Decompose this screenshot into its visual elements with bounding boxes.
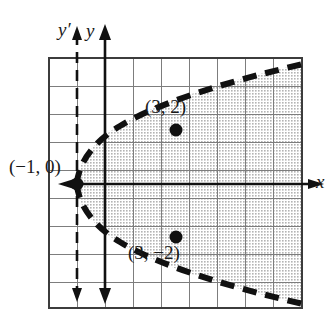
x-axis-label: x — [316, 172, 324, 191]
y-axis-label: y — [86, 21, 94, 40]
point-vertex — [71, 178, 84, 191]
lower-point-label: (3, −2) — [128, 243, 180, 262]
vertex-point-label: (−1, 0) — [9, 157, 61, 176]
upper-point-label: (3, 2) — [145, 97, 186, 116]
parabola-figure: y′ y x (−1, 0) (3, 2) (3, −2) — [0, 0, 325, 320]
point-upper — [170, 124, 183, 137]
y-prime-axis-label: y′ — [58, 20, 71, 39]
